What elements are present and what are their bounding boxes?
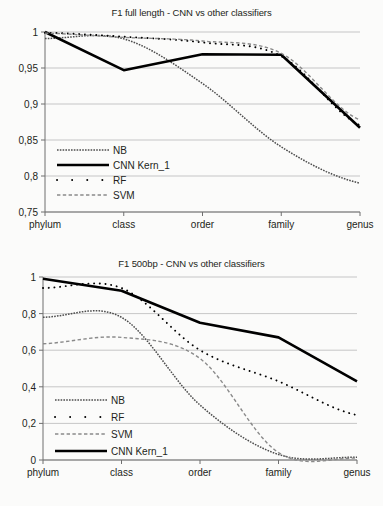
legend-swatches	[0, 253, 383, 506]
chart-f1-500bp: F1 500bp - CNN vs other classifiers 10,8…	[0, 253, 383, 506]
legend-swatches	[0, 0, 383, 253]
chart-f1-full-length: F1 full length - CNN vs other classifier…	[0, 0, 383, 253]
